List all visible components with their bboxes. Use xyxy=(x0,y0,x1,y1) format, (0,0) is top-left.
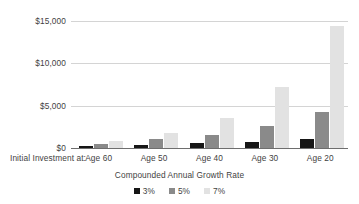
x-axis-category-label: Age 20 xyxy=(293,153,348,163)
chart-legend: 3%5%7% xyxy=(0,186,359,196)
legend-item[interactable]: 3% xyxy=(134,186,155,196)
x-axis-category-label: Age 30 xyxy=(237,153,292,163)
legend-label: 3% xyxy=(143,186,155,196)
x-axis-baseline xyxy=(71,148,348,149)
y-axis-tick-label: $5,000 xyxy=(6,101,66,111)
x-axis-category-label: Age 40 xyxy=(182,153,237,163)
bar-group xyxy=(79,15,123,148)
bar xyxy=(205,135,219,148)
bar xyxy=(94,144,108,148)
legend-label: 5% xyxy=(178,186,190,196)
legend-item[interactable]: 7% xyxy=(204,186,225,196)
bar-group xyxy=(190,15,234,148)
bar xyxy=(275,87,289,148)
bar xyxy=(245,142,259,148)
legend-swatch xyxy=(204,188,210,194)
bar-group xyxy=(300,15,344,148)
bar xyxy=(220,118,234,148)
plot-area xyxy=(71,12,348,149)
bar-chart: $0$5,000$10,000$15,000 Initial Investmen… xyxy=(0,0,359,204)
bar xyxy=(79,146,93,148)
bar xyxy=(330,26,344,148)
legend-label: 7% xyxy=(213,186,225,196)
legend-swatch xyxy=(134,188,140,194)
bar xyxy=(134,145,148,148)
bar xyxy=(149,139,163,148)
x-axis-category-label: Age 50 xyxy=(126,153,181,163)
bar-group xyxy=(134,15,178,148)
y-axis-tick-label: $15,000 xyxy=(6,16,66,26)
bar xyxy=(190,143,204,148)
bar xyxy=(109,141,123,148)
bar xyxy=(315,112,329,148)
y-axis-tick-label: $0 xyxy=(6,143,66,153)
y-axis-tick-label: $10,000 xyxy=(6,58,66,68)
legend-swatch xyxy=(169,188,175,194)
x-axis-category-label: Age 60 xyxy=(71,153,126,163)
bar xyxy=(300,139,314,148)
bar-group xyxy=(245,15,289,148)
x-axis-title: Compounded Annual Growth Rate xyxy=(0,170,359,180)
bar xyxy=(164,133,178,148)
bar xyxy=(260,126,274,148)
legend-item[interactable]: 5% xyxy=(169,186,190,196)
